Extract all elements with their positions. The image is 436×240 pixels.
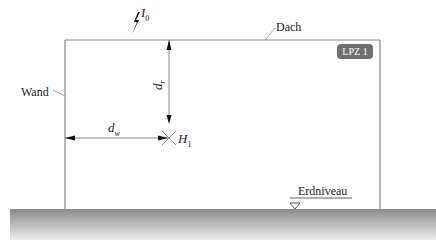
ground-level-triangle-icon — [290, 203, 300, 209]
ground-level-label: Erdniveau — [298, 185, 347, 197]
dr-bottom-arrow — [167, 115, 172, 124]
wall-label: Wand — [21, 86, 49, 98]
roof-leader-line — [265, 28, 275, 40]
lightning-bolt-icon — [132, 12, 140, 34]
ground — [10, 209, 436, 240]
distance-wall-label: dw — [108, 121, 120, 138]
distance-roof-label: dr — [151, 80, 168, 90]
dw-right-arrow — [158, 136, 168, 141]
diagram-canvas — [0, 0, 436, 240]
lightning-current-label: I0 — [141, 6, 149, 23]
dw-left-arrow — [65, 136, 75, 141]
field-point-label: H1 — [178, 132, 191, 149]
zone-badge: LPZ 1 — [337, 44, 373, 59]
roof-label: Dach — [276, 21, 301, 33]
wall-leader-line — [53, 90, 65, 96]
dr-top-arrow — [167, 40, 172, 50]
